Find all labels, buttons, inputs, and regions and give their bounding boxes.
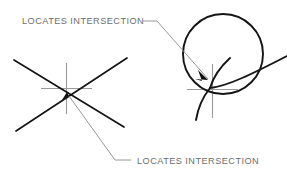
diagram-circle-and-arc xyxy=(183,14,287,120)
arc-lower-left-tail xyxy=(196,88,210,120)
crosshair-marker-circle xyxy=(187,64,238,118)
bottom-label-text: LOCATES INTERSECTION xyxy=(137,156,259,166)
diagram-crossing-lines xyxy=(14,58,127,131)
bottom-leader-line xyxy=(69,96,131,160)
technical-drawing-figure: LOCATES INTERSECTION LOCATES INTERSECTIO… xyxy=(0,0,287,179)
circle-shape xyxy=(183,14,263,94)
line-up-right xyxy=(16,58,127,131)
drawing-canvas: LOCATES INTERSECTION LOCATES INTERSECTIO… xyxy=(0,0,287,179)
annotation-top: LOCATES INTERSECTION xyxy=(22,16,208,81)
annotation-bottom: LOCATES INTERSECTION xyxy=(62,92,259,166)
arc-shallow-right xyxy=(210,56,287,88)
crosshair-marker-lines xyxy=(41,63,92,114)
top-label-text: LOCATES INTERSECTION xyxy=(22,16,144,26)
